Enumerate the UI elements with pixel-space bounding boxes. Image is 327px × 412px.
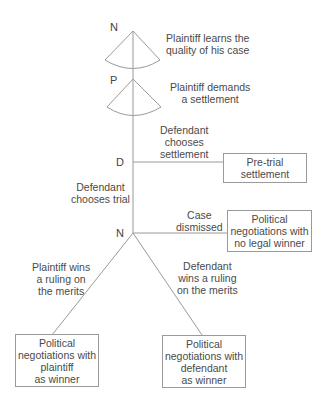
outcome-pretrial-settlement: Pre-trial settlement bbox=[223, 153, 307, 183]
label-plaintiff-learns: Plaintiff learns the quality of his case bbox=[166, 32, 249, 56]
node-plaintiff: P bbox=[110, 74, 117, 86]
label-defendant-settles: Defendant chooses settlement bbox=[160, 124, 208, 160]
node-defendant: D bbox=[116, 156, 124, 168]
outcome-no-legal-winner: Political negotiations with no legal win… bbox=[227, 210, 312, 252]
node-nature-2: N bbox=[116, 227, 124, 239]
label-defendant-trial: Defendant chooses trial bbox=[71, 181, 130, 205]
node-nature-1: N bbox=[110, 21, 118, 33]
label-plaintiff-wins: Plaintiff wins a ruling on the merits bbox=[32, 261, 90, 297]
label-case-dismissed: Case dismissed bbox=[176, 209, 223, 233]
outcome-plaintiff-winner: Political negotiations with plaintiff as… bbox=[15, 334, 99, 387]
outcome-defendant-winner: Political negotiations with defendant as… bbox=[162, 335, 246, 388]
label-plaintiff-demands: Plaintiff demands a settlement bbox=[170, 81, 250, 105]
label-defendant-wins: Defendant wins a ruling on the merits bbox=[177, 260, 238, 296]
